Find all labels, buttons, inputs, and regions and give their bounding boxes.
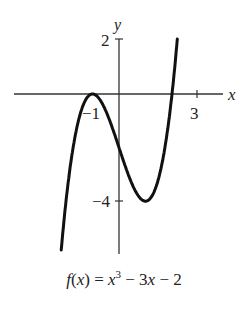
caption-x2: x (108, 270, 116, 289)
x-tick-label-neg1: −1 (82, 104, 100, 123)
y-tick-label-neg4: −4 (92, 192, 111, 211)
x-axis-label: x (227, 85, 236, 104)
x-tick-label-3: 3 (190, 104, 199, 123)
caption-eq: = (90, 270, 108, 289)
caption-rest1: − 3 (121, 270, 148, 289)
y-tick-label-2: 2 (101, 31, 110, 50)
y-axis-label: y (112, 16, 122, 34)
caption-rest2: − 2 (155, 270, 182, 289)
function-caption: f(x) = x3 − 3x − 2 (0, 268, 248, 290)
function-graph: x y 2 3 −1 −4 (0, 0, 248, 309)
